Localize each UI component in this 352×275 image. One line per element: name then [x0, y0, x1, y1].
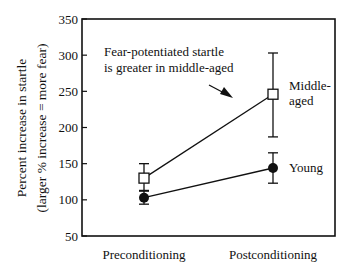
y-tick-label: 200 — [59, 120, 79, 135]
marker-filled-circle — [139, 193, 149, 203]
x-category-label: Postconditioning — [229, 247, 318, 262]
y-axis-title: Percent increase in startle — [14, 59, 29, 197]
marker-open-square — [268, 89, 278, 99]
series-label: Middle- — [289, 78, 331, 93]
x-axis-labels: PreconditioningPostconditioning — [102, 247, 317, 262]
y-axis-label: Percent increase in startle(larger % inc… — [14, 44, 49, 213]
y-tick-label: 300 — [59, 48, 79, 63]
line-chart: 50100150200250300350 PreconditioningPost… — [0, 0, 352, 275]
y-tick-label: 250 — [59, 84, 79, 99]
y-tick-label: 50 — [65, 229, 78, 244]
series-label: Young — [289, 160, 324, 175]
y-tick-label: 350 — [59, 12, 79, 27]
y-tick-label: 100 — [59, 192, 79, 207]
series-line — [144, 94, 273, 178]
annotation-text: is greater in middle-aged — [104, 60, 234, 75]
series-young: Young — [139, 153, 324, 204]
y-tick-label: 150 — [59, 156, 79, 171]
marker-open-square — [139, 173, 149, 183]
arrow-head-icon — [220, 87, 233, 98]
annotation: Fear-potentiated startleis greater in mi… — [104, 44, 234, 98]
series-label: aged — [289, 93, 314, 108]
annotation-text: Fear-potentiated startle — [104, 44, 224, 59]
marker-filled-circle — [268, 163, 278, 173]
y-axis-subtitle: (larger % increase = more fear) — [34, 44, 49, 213]
data-series: Middle-agedYoung — [139, 53, 331, 204]
x-category-label: Preconditioning — [102, 247, 186, 262]
series-line — [144, 168, 273, 198]
